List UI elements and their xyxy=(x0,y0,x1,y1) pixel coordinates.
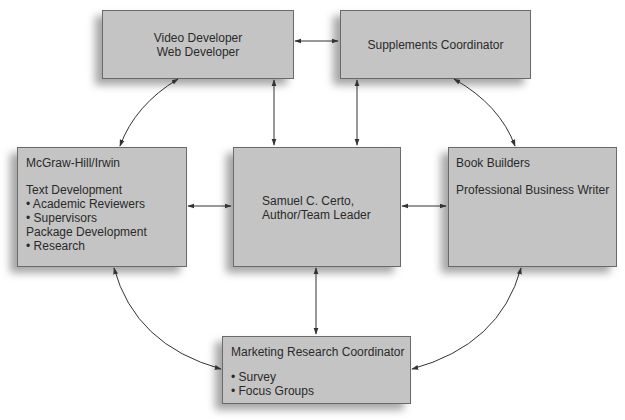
node-title: McGraw-Hill/Irwin xyxy=(26,156,186,170)
edge-mcgraw-marketing xyxy=(114,268,221,369)
edge-video-mcgraw xyxy=(120,79,178,146)
node-mcgraw-hill: McGraw-Hill/Irwin Text Development • Aca… xyxy=(17,147,187,267)
node-line: Professional Business Writer xyxy=(456,183,616,197)
node-line: Samuel C. Certo, xyxy=(262,194,400,208)
edge-bookbuilders-marketing xyxy=(412,268,521,369)
node-line: • Supervisors xyxy=(26,211,186,225)
node-line: Video Developer xyxy=(154,31,243,45)
node-line: • Research xyxy=(26,239,186,253)
node-samuel-certo: Samuel C. Certo, Author/Team Leader xyxy=(233,147,401,267)
node-book-builders: Book Builders Professional Business Writ… xyxy=(448,147,617,267)
node-line: • Survey xyxy=(231,370,410,384)
node-line: Web Developer xyxy=(157,45,240,59)
node-line: Author/Team Leader xyxy=(262,208,400,222)
node-marketing-research: Marketing Research Coordinator • Survey … xyxy=(222,336,411,404)
node-title: Marketing Research Coordinator xyxy=(231,345,410,359)
node-line: Text Development xyxy=(26,183,186,197)
node-line: Package Development xyxy=(26,225,186,239)
node-video-developer: Video Developer Web Developer xyxy=(102,10,294,79)
node-title: Book Builders xyxy=(456,156,616,170)
edge-supplements-bookbuilders xyxy=(454,79,515,146)
node-supplements-coordinator: Supplements Coordinator xyxy=(340,10,531,79)
node-line: • Focus Groups xyxy=(231,384,410,398)
node-line: • Academic Reviewers xyxy=(26,197,186,211)
node-line: Supplements Coordinator xyxy=(367,38,503,52)
